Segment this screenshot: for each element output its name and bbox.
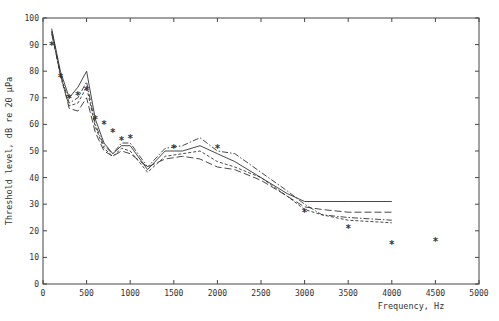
asterisk-marker: * <box>84 85 90 96</box>
threshold-chart: 0500100015002000250030003500400045005000… <box>0 0 499 321</box>
series-line-solid <box>52 29 392 202</box>
y-axis-label: Threshold level, dB re 20 μPa <box>4 77 14 225</box>
x-tick-label: 4000 <box>382 289 401 298</box>
asterisk-marker: * <box>110 127 116 138</box>
x-tick-label: 5000 <box>469 289 488 298</box>
y-tick-label: 10 <box>29 253 39 262</box>
y-tick-label: 40 <box>29 174 39 183</box>
asterisk-marker: * <box>345 223 351 234</box>
y-tick-label: 60 <box>29 120 39 129</box>
y-tick-label: 100 <box>25 14 40 23</box>
asterisk-markers: **************** <box>49 40 439 251</box>
asterisk-marker: * <box>92 114 98 125</box>
asterisk-marker: * <box>432 236 438 247</box>
tick-labels: 0500100015002000250030003500400045005000… <box>25 14 489 298</box>
asterisk-marker: * <box>66 93 72 104</box>
asterisk-marker: * <box>127 133 133 144</box>
y-tick-label: 0 <box>34 280 39 289</box>
x-tick-label: 0 <box>41 289 46 298</box>
asterisk-marker: * <box>118 135 124 146</box>
plot-frame <box>43 18 479 284</box>
asterisk-marker: * <box>75 90 81 101</box>
x-tick-label: 4500 <box>426 289 445 298</box>
x-axis-label: Frequency, Hz <box>378 301 445 311</box>
x-tick-label: 1500 <box>164 289 183 298</box>
asterisk-marker: * <box>389 239 395 250</box>
axes <box>43 18 479 284</box>
y-tick-label: 70 <box>29 94 39 103</box>
asterisk-marker: * <box>171 143 177 154</box>
x-tick-label: 500 <box>79 289 94 298</box>
asterisk-marker: * <box>57 72 63 83</box>
y-tick-label: 30 <box>29 200 39 209</box>
x-tick-label: 3500 <box>339 289 358 298</box>
asterisk-marker: * <box>302 207 308 218</box>
y-tick-label: 50 <box>29 147 39 156</box>
y-tick-label: 80 <box>29 67 39 76</box>
asterisk-marker: * <box>214 143 220 154</box>
x-tick-label: 2000 <box>208 289 227 298</box>
y-tick-label: 20 <box>29 227 39 236</box>
x-tick-label: 2500 <box>251 289 270 298</box>
asterisk-marker: * <box>49 40 55 51</box>
x-tick-label: 1000 <box>121 289 140 298</box>
y-tick-label: 90 <box>29 41 39 50</box>
asterisk-marker: * <box>101 119 107 130</box>
x-tick-label: 3000 <box>295 289 314 298</box>
